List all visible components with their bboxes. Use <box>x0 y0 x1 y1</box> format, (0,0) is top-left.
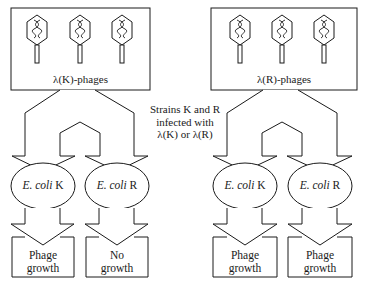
outcome-right-k: Phage growth <box>213 249 277 275</box>
caption-line-1: Strains K and R <box>146 103 224 116</box>
outcome-right-r: Phage growth <box>288 249 352 275</box>
strain-name: K <box>55 179 63 191</box>
outcome-left-r: No growth <box>86 249 148 275</box>
species-name: E. coli <box>224 179 254 191</box>
result-arrow-left-r <box>85 208 148 245</box>
host-label-right-r: E. coli R <box>288 179 352 191</box>
right-split-arrow <box>213 90 352 171</box>
right-source-label: λ(R)-phages <box>211 73 357 85</box>
strain-name: R <box>130 179 138 191</box>
center-caption: Strains K and R infected with λ(K) or λ(… <box>146 103 224 141</box>
result-arrow-right-k <box>213 208 277 245</box>
species-name: E. coli <box>300 179 330 191</box>
strain-name: R <box>333 179 341 191</box>
left-split-arrow <box>12 90 148 171</box>
outcome-line: Phage <box>12 249 74 262</box>
outcome-line: growth <box>86 262 148 275</box>
outcome-line: growth <box>288 262 352 275</box>
result-arrow-left-k <box>11 208 74 245</box>
left-source-label: λ(K)-phages <box>11 73 150 85</box>
strain-name: K <box>257 179 265 191</box>
host-label-left-r: E. coli R <box>85 179 149 191</box>
caption-line-2: infected with <box>146 116 224 129</box>
outcome-line: Phage <box>213 249 277 262</box>
diagram-canvas <box>0 0 369 282</box>
outcome-line: No <box>86 249 148 262</box>
host-label-left-k: E. coli K <box>11 179 75 191</box>
result-arrow-right-r <box>288 208 352 245</box>
outcome-left-k: Phage growth <box>12 249 74 275</box>
outcome-line: growth <box>213 262 277 275</box>
host-label-right-k: E. coli K <box>213 179 277 191</box>
species-name: E. coli <box>22 179 52 191</box>
outcome-line: growth <box>12 262 74 275</box>
caption-line-3: λ(K) or λ(R) <box>146 128 224 141</box>
outcome-line: Phage <box>288 249 352 262</box>
species-name: E. coli <box>97 179 127 191</box>
